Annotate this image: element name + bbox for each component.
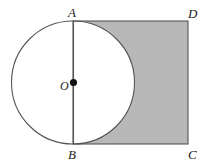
center-point-dot [70,79,77,86]
shaded-region [73,21,188,144]
vertex-label-b: B [68,148,76,161]
vertex-label-d: D [188,7,197,20]
vertex-label-a: A [68,6,76,19]
geometry-diagram [0,0,209,167]
center-label-o: O [60,80,69,93]
geometry-figure: A D B C O [0,0,209,167]
vertex-label-c: C [188,148,197,161]
